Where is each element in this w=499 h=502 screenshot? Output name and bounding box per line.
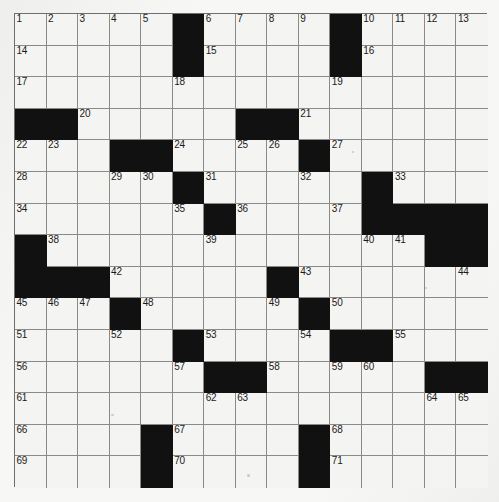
grid-cell[interactable] [78, 46, 110, 78]
grid-cell[interactable] [236, 425, 268, 457]
grid-cell[interactable]: 14 [15, 46, 47, 78]
grid-cell[interactable]: 17 [15, 77, 47, 109]
grid-cell[interactable] [204, 109, 236, 141]
grid-cell[interactable]: 36 [236, 204, 268, 236]
grid-cell[interactable]: 58 [267, 362, 299, 394]
grid-cell[interactable]: 57 [173, 362, 205, 394]
grid-cell[interactable] [110, 46, 142, 78]
grid-cell[interactable] [362, 140, 394, 172]
grid-cell[interactable]: 37 [330, 204, 362, 236]
grid-cell[interactable] [456, 298, 488, 330]
grid-cell[interactable] [236, 172, 268, 204]
grid-cell[interactable] [110, 109, 142, 141]
grid-cell[interactable] [299, 235, 331, 267]
grid-cell[interactable] [267, 77, 299, 109]
grid-cell[interactable]: 53 [204, 330, 236, 362]
grid-cell[interactable] [456, 172, 488, 204]
grid-cell[interactable] [362, 267, 394, 299]
grid-cell[interactable] [47, 77, 79, 109]
grid-cell[interactable] [362, 393, 394, 425]
grid-cell[interactable]: 46 [47, 298, 79, 330]
grid-cell[interactable] [393, 267, 425, 299]
grid-cell[interactable]: 23 [47, 140, 79, 172]
grid-cell[interactable] [110, 456, 142, 488]
grid-cell[interactable] [47, 393, 79, 425]
grid-cell[interactable] [236, 298, 268, 330]
grid-cell[interactable]: 15 [204, 46, 236, 78]
grid-cell[interactable]: 8 [267, 14, 299, 46]
grid-cell[interactable]: 67 [173, 425, 205, 457]
grid-cell[interactable] [47, 204, 79, 236]
grid-cell[interactable] [110, 204, 142, 236]
grid-cell[interactable] [204, 425, 236, 457]
grid-cell[interactable]: 27 [330, 140, 362, 172]
grid-cell[interactable] [299, 77, 331, 109]
grid-cell[interactable]: 45 [15, 298, 47, 330]
grid-cell[interactable] [393, 362, 425, 394]
grid-cell[interactable] [393, 46, 425, 78]
grid-cell[interactable] [425, 330, 457, 362]
grid-cell[interactable] [330, 393, 362, 425]
grid-cell[interactable]: 59 [330, 362, 362, 394]
grid-cell[interactable]: 69 [15, 456, 47, 488]
grid-cell[interactable] [393, 140, 425, 172]
grid-cell[interactable] [78, 425, 110, 457]
grid-cell[interactable] [141, 109, 173, 141]
grid-cell[interactable] [78, 393, 110, 425]
grid-cell[interactable] [236, 267, 268, 299]
grid-cell[interactable]: 33 [393, 172, 425, 204]
grid-cell[interactable] [78, 140, 110, 172]
grid-cell[interactable] [267, 204, 299, 236]
grid-cell[interactable] [141, 204, 173, 236]
grid-cell[interactable]: 40 [362, 235, 394, 267]
grid-cell[interactable]: 34 [15, 204, 47, 236]
grid-cell[interactable] [141, 393, 173, 425]
grid-cell[interactable]: 50 [330, 298, 362, 330]
grid-cell[interactable]: 30 [141, 172, 173, 204]
grid-cell[interactable]: 11 [393, 14, 425, 46]
grid-cell[interactable] [141, 362, 173, 394]
grid-cell[interactable] [456, 425, 488, 457]
grid-cell[interactable] [456, 77, 488, 109]
grid-cell[interactable] [362, 298, 394, 330]
grid-cell[interactable] [47, 46, 79, 78]
grid-cell[interactable]: 70 [173, 456, 205, 488]
grid-cell[interactable]: 38 [47, 235, 79, 267]
grid-cell[interactable] [362, 77, 394, 109]
grid-cell[interactable]: 66 [15, 425, 47, 457]
grid-cell[interactable]: 6 [204, 14, 236, 46]
grid-cell[interactable] [110, 77, 142, 109]
grid-cell[interactable] [425, 77, 457, 109]
grid-cell[interactable] [204, 77, 236, 109]
grid-cell[interactable] [456, 140, 488, 172]
grid-cell[interactable] [267, 393, 299, 425]
grid-cell[interactable] [456, 330, 488, 362]
grid-cell[interactable] [78, 456, 110, 488]
grid-cell[interactable]: 20 [78, 109, 110, 141]
grid-cell[interactable] [393, 456, 425, 488]
grid-cell[interactable] [425, 140, 457, 172]
grid-cell[interactable] [456, 46, 488, 78]
grid-cell[interactable]: 44 [456, 267, 488, 299]
grid-cell[interactable]: 47 [78, 298, 110, 330]
grid-cell[interactable] [330, 267, 362, 299]
grid-cell[interactable] [425, 456, 457, 488]
grid-cell[interactable]: 65 [456, 393, 488, 425]
grid-cell[interactable] [78, 77, 110, 109]
grid-cell[interactable]: 1 [15, 14, 47, 46]
grid-cell[interactable]: 22 [15, 140, 47, 172]
grid-cell[interactable]: 21 [299, 109, 331, 141]
grid-cell[interactable] [47, 362, 79, 394]
grid-cell[interactable]: 71 [330, 456, 362, 488]
grid-cell[interactable] [141, 77, 173, 109]
grid-cell[interactable]: 52 [110, 330, 142, 362]
grid-cell[interactable]: 12 [425, 14, 457, 46]
grid-cell[interactable] [267, 46, 299, 78]
grid-cell[interactable] [173, 393, 205, 425]
grid-cell[interactable] [236, 456, 268, 488]
grid-cell[interactable]: 41 [393, 235, 425, 267]
grid-cell[interactable]: 35 [173, 204, 205, 236]
grid-cell[interactable]: 4 [110, 14, 142, 46]
grid-cell[interactable] [110, 235, 142, 267]
grid-cell[interactable]: 19 [330, 77, 362, 109]
